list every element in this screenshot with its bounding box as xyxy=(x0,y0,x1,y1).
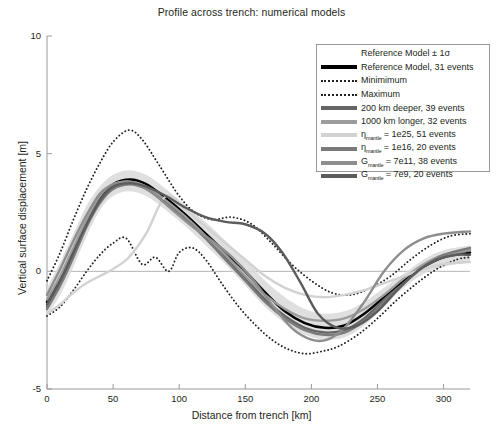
y-axis-label: Vertical surface displacement [m] xyxy=(16,108,28,328)
legend-item-label: 1000 km longer, 32 events xyxy=(361,117,467,126)
x-tick-label: 50 xyxy=(98,393,128,404)
legend-swatch-icon xyxy=(321,143,357,155)
x-tick-label: 200 xyxy=(296,393,326,404)
legend-item[interactable]: 1000 km longer, 32 events xyxy=(321,115,485,129)
series-band xyxy=(47,170,470,340)
legend-item[interactable]: Gmantle = 7e11, 38 events xyxy=(321,156,485,170)
legend-swatch-icon xyxy=(321,61,357,73)
x-tick-label: 150 xyxy=(230,393,260,404)
x-tick-label: 100 xyxy=(164,393,194,404)
x-tick-label: 0 xyxy=(32,393,62,404)
legend-item-label: Minimimum xyxy=(361,76,407,85)
x-tick-label: 250 xyxy=(362,393,392,404)
legend-item-label: Reference Model, 31 events xyxy=(361,63,474,72)
legend-swatch-icon xyxy=(321,48,357,60)
legend-item[interactable]: Reference Model, 31 events xyxy=(321,61,485,75)
legend-item[interactable]: ηmantle = 1e16, 20 events xyxy=(321,142,485,156)
legend-item-label: Maximum xyxy=(361,90,400,99)
legend-item-label: Gmantle = 7e11, 38 events xyxy=(361,157,457,168)
y-tick-label: 10 xyxy=(19,30,41,41)
x-tick-label: 300 xyxy=(429,393,459,404)
legend-swatch-icon xyxy=(321,116,357,128)
series-line xyxy=(47,184,470,335)
figure-container: Profile across trench: numerical models … xyxy=(0,0,503,444)
series-line xyxy=(47,182,470,342)
legend-swatch-icon xyxy=(321,102,357,114)
legend-item[interactable]: Gmantle = 7e9, 20 events xyxy=(321,169,485,183)
y-tick-label: -5 xyxy=(19,383,41,394)
series-line xyxy=(47,182,470,333)
legend-swatch-icon xyxy=(321,129,357,141)
legend-item-label: Reference Model ± 1σ xyxy=(361,49,450,58)
legend-item-label: ηmantle = 1e16, 20 events xyxy=(361,143,456,154)
series-line xyxy=(47,183,470,329)
legend-box: Reference Model ± 1σReference Model, 31 … xyxy=(316,44,490,172)
legend-swatch-icon xyxy=(321,157,357,169)
legend-swatch-icon xyxy=(321,89,357,101)
legend-item[interactable]: Minimimum xyxy=(321,74,485,88)
legend-item[interactable]: Reference Model ± 1σ xyxy=(321,47,485,61)
legend-item-label: 200 km deeper, 39 events xyxy=(361,104,465,113)
legend-item[interactable]: ηmantle = 1e25, 51 events xyxy=(321,129,485,143)
legend-item-label: ηmantle = 1e25, 51 events xyxy=(361,130,456,141)
legend-item-label: Gmantle = 7e9, 20 events xyxy=(361,170,453,181)
legend-swatch-icon xyxy=(321,75,357,87)
legend-item[interactable]: Maximum xyxy=(321,88,485,102)
series-line xyxy=(47,180,470,328)
legend-item[interactable]: 200 km deeper, 39 events xyxy=(321,101,485,115)
x-axis-label: Distance from trench [km] xyxy=(0,409,503,421)
legend-swatch-icon xyxy=(321,170,357,182)
